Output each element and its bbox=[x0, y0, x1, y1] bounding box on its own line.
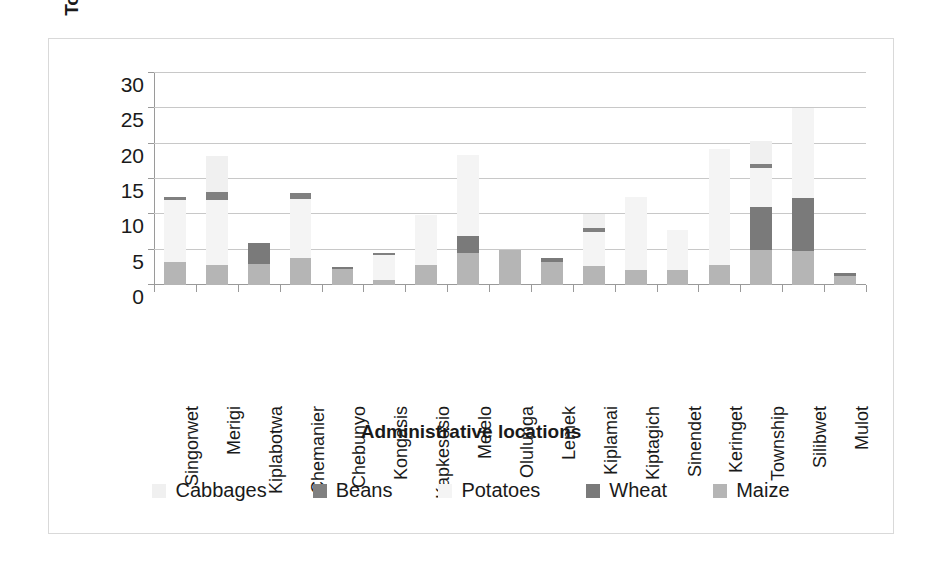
y-axis-title-wrapper: Total production, ton/Ha bbox=[67, 69, 101, 389]
bar-segment-maize[interactable] bbox=[541, 262, 563, 285]
legend-item[interactable]: Maize bbox=[713, 479, 789, 502]
bar-segment-potatoes[interactable] bbox=[667, 230, 689, 270]
x-tick bbox=[698, 285, 699, 292]
bar-segment-wheat[interactable] bbox=[457, 236, 479, 253]
legend-item[interactable]: Beans bbox=[313, 479, 393, 502]
bar-segment-potatoes[interactable] bbox=[290, 199, 312, 258]
x-axis-label-township: Township bbox=[769, 406, 787, 481]
bar-segment-maize[interactable] bbox=[792, 251, 814, 285]
legend-label: Cabbages bbox=[175, 479, 266, 502]
bar-slot[interactable] bbox=[698, 73, 740, 285]
x-tick bbox=[489, 285, 490, 292]
bar-segment-maize[interactable] bbox=[164, 262, 186, 285]
bar-segment-potatoes[interactable] bbox=[709, 149, 731, 265]
x-axis-label-kiptagich: Kiptagich bbox=[644, 406, 662, 480]
legend-swatch-wheat bbox=[586, 484, 600, 498]
x-tick bbox=[866, 285, 867, 292]
x-axis-label-kongasis: Kongasis bbox=[392, 406, 410, 480]
bar-segment-beans[interactable] bbox=[290, 193, 312, 199]
x-tick bbox=[657, 285, 658, 292]
x-axis-title: Administrative locations bbox=[49, 421, 893, 443]
chart-legend: CabbagesBeansPotatoesWheatMaize bbox=[49, 479, 893, 502]
bar-segment-potatoes[interactable] bbox=[164, 200, 186, 262]
bar-segment-maize[interactable] bbox=[457, 253, 479, 285]
bar-segment-potatoes[interactable] bbox=[206, 200, 228, 265]
bar-slot[interactable] bbox=[196, 73, 238, 285]
bar-segment-wheat[interactable] bbox=[792, 198, 814, 251]
legend-item[interactable]: Potatoes bbox=[438, 479, 540, 502]
bar-segment-cabbages[interactable] bbox=[750, 141, 772, 164]
bar-slot[interactable] bbox=[489, 73, 531, 285]
x-axis-label-singorwet: Singorwet bbox=[183, 406, 201, 486]
bar-segment-wheat[interactable] bbox=[541, 258, 563, 262]
x-tick bbox=[280, 285, 281, 292]
bar-slot[interactable] bbox=[154, 73, 196, 285]
bar-segment-maize[interactable] bbox=[750, 250, 772, 285]
bar-slot[interactable] bbox=[363, 73, 405, 285]
bar-slot[interactable] bbox=[657, 73, 699, 285]
bar-slot[interactable] bbox=[322, 73, 364, 285]
bar-segment-wheat[interactable] bbox=[750, 207, 772, 250]
bar-segment-cabbages[interactable] bbox=[583, 214, 605, 228]
bar-segment-potatoes[interactable] bbox=[373, 255, 395, 280]
x-tick bbox=[238, 285, 239, 292]
legend-swatch-beans bbox=[313, 484, 327, 498]
bar-slot[interactable] bbox=[782, 73, 824, 285]
legend-item[interactable]: Cabbages bbox=[152, 479, 266, 502]
bar-slot[interactable] bbox=[615, 73, 657, 285]
x-tick bbox=[154, 285, 155, 292]
bar-segment-potatoes[interactable] bbox=[792, 108, 814, 198]
bar-slot[interactable] bbox=[531, 73, 573, 285]
x-axis-ticks bbox=[154, 285, 866, 292]
bar-segment-potatoes[interactable] bbox=[457, 155, 479, 236]
bar-segment-beans[interactable] bbox=[164, 197, 186, 200]
bar-segment-maize[interactable] bbox=[583, 266, 605, 285]
bar-slot[interactable] bbox=[740, 73, 782, 285]
x-tick bbox=[615, 285, 616, 292]
bar-segment-wheat[interactable] bbox=[332, 267, 354, 269]
x-tick bbox=[196, 285, 197, 292]
bar-segment-maize[interactable] bbox=[248, 264, 270, 285]
bar-segment-potatoes[interactable] bbox=[750, 168, 772, 207]
bar-segment-maize[interactable] bbox=[290, 258, 312, 285]
legend-label: Potatoes bbox=[461, 479, 540, 502]
bar-segment-beans[interactable] bbox=[583, 228, 605, 232]
x-axis-category-labels: SingorwetMerigiKiplabotwaChemanierChebun… bbox=[154, 292, 866, 410]
bar-segment-maize[interactable] bbox=[667, 270, 689, 285]
bar-segment-maize[interactable] bbox=[499, 250, 521, 285]
bar-segment-beans[interactable] bbox=[206, 192, 228, 199]
bar-segment-wheat[interactable] bbox=[834, 273, 856, 276]
bar-slot[interactable] bbox=[405, 73, 447, 285]
bar-slot[interactable] bbox=[238, 73, 280, 285]
bar-segment-maize[interactable] bbox=[709, 265, 731, 285]
bar-segment-cabbages[interactable] bbox=[206, 156, 228, 193]
bar-series-group bbox=[154, 73, 866, 285]
x-tick bbox=[740, 285, 741, 292]
x-tick bbox=[782, 285, 783, 292]
bar-slot[interactable] bbox=[280, 73, 322, 285]
x-tick bbox=[573, 285, 574, 292]
legend-item[interactable]: Wheat bbox=[586, 479, 667, 502]
x-axis-label-chebunyo: Chebunyo bbox=[350, 406, 368, 488]
bar-segment-maize[interactable] bbox=[625, 270, 647, 285]
bar-slot[interactable] bbox=[824, 73, 866, 285]
bar-segment-maize[interactable] bbox=[332, 269, 354, 285]
bar-segment-maize[interactable] bbox=[415, 265, 437, 285]
x-tick bbox=[531, 285, 532, 292]
bar-slot[interactable] bbox=[573, 73, 615, 285]
bar-segment-potatoes[interactable] bbox=[415, 215, 437, 265]
bar-segment-potatoes[interactable] bbox=[583, 232, 605, 266]
plot-area: 051015202530 bbox=[154, 73, 866, 285]
bar-segment-potatoes[interactable] bbox=[625, 197, 647, 270]
bar-segment-maize[interactable] bbox=[206, 265, 228, 285]
bar-slot[interactable] bbox=[447, 73, 489, 285]
legend-label: Maize bbox=[736, 479, 789, 502]
bar-segment-maize[interactable] bbox=[834, 276, 856, 285]
bar-segment-beans[interactable] bbox=[750, 164, 772, 168]
legend-label: Beans bbox=[336, 479, 393, 502]
legend-label: Wheat bbox=[609, 479, 667, 502]
legend-swatch-potatoes bbox=[438, 484, 452, 498]
x-tick bbox=[363, 285, 364, 292]
bar-segment-wheat[interactable] bbox=[248, 243, 270, 264]
bar-segment-beans[interactable] bbox=[373, 253, 395, 255]
